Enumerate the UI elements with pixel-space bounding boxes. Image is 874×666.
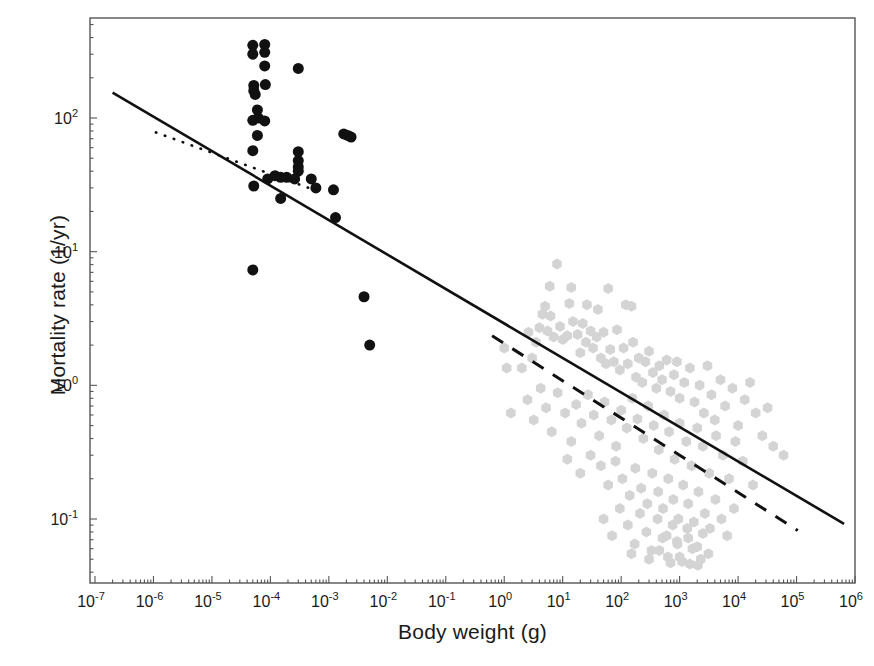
- data-point: [655, 545, 665, 556]
- data-point: [758, 430, 768, 441]
- data-point: [682, 436, 692, 447]
- data-point: [566, 282, 576, 293]
- data-point: [707, 389, 717, 400]
- data-point: [563, 454, 573, 465]
- data-point: [547, 426, 557, 437]
- y-tick-label: 10-1: [50, 508, 78, 528]
- data-point: [625, 490, 635, 501]
- data-point: [683, 498, 693, 509]
- data-point: [250, 89, 261, 100]
- data-point: [710, 415, 720, 426]
- data-point: [623, 520, 633, 531]
- x-tick-label: 10-2: [370, 590, 398, 610]
- data-point: [644, 346, 654, 357]
- data-point: [636, 483, 646, 494]
- data-point: [571, 399, 581, 410]
- data-point: [586, 450, 596, 461]
- x-tick-label: 10-3: [311, 590, 339, 610]
- data-point: [728, 383, 738, 394]
- data-point: [346, 132, 357, 143]
- data-point: [733, 420, 743, 431]
- x-tick-label: 101: [547, 590, 571, 610]
- data-point: [683, 533, 693, 544]
- data-point: [711, 494, 721, 505]
- data-point: [724, 473, 734, 484]
- series-small-organisms: [247, 39, 375, 351]
- data-point: [247, 264, 258, 275]
- data-point: [555, 321, 565, 332]
- x-tick-label: 103: [664, 590, 688, 610]
- data-point: [635, 508, 645, 519]
- data-point: [607, 530, 617, 541]
- data-point: [536, 383, 546, 394]
- data-point: [259, 115, 270, 126]
- data-point: [552, 258, 562, 269]
- data-point: [717, 514, 727, 525]
- data-point: [694, 486, 704, 497]
- data-point: [599, 514, 609, 525]
- data-points-layer: [247, 39, 788, 571]
- data-point: [672, 356, 682, 367]
- data-point: [642, 526, 652, 537]
- data-point: [247, 115, 258, 126]
- data-point: [546, 311, 556, 322]
- data-point: [582, 299, 592, 310]
- data-point: [639, 433, 649, 444]
- data-point: [703, 360, 713, 371]
- x-tick-label: 100: [488, 590, 512, 610]
- data-point: [664, 473, 674, 484]
- data-point: [745, 377, 755, 388]
- data-point: [293, 63, 304, 74]
- data-point: [560, 408, 570, 419]
- data-point: [328, 184, 339, 195]
- data-point: [633, 413, 643, 424]
- data-point: [685, 362, 695, 373]
- data-point: [499, 343, 509, 354]
- data-point: [594, 430, 604, 441]
- data-point: [649, 420, 659, 431]
- data-point: [652, 383, 662, 394]
- data-point: [643, 498, 653, 509]
- data-point: [573, 329, 583, 340]
- data-point: [699, 408, 709, 419]
- data-point: [364, 340, 375, 351]
- fit-line-overall-fit: [113, 93, 844, 524]
- data-point: [751, 408, 761, 419]
- data-point: [529, 415, 539, 426]
- data-point: [657, 374, 667, 385]
- data-point: [596, 460, 606, 471]
- series-large-organisms: [499, 258, 788, 570]
- data-point: [711, 430, 721, 441]
- x-tick-label: 10-4: [253, 590, 281, 610]
- data-point: [653, 486, 663, 497]
- data-point: [578, 318, 588, 329]
- x-tick-label: 10-5: [194, 590, 222, 610]
- x-tick-label: 104: [722, 590, 746, 610]
- plot-frame: [90, 18, 855, 583]
- data-point: [502, 362, 512, 373]
- data-point: [653, 514, 663, 525]
- data-point: [259, 60, 270, 71]
- x-tick-label: 10-1: [428, 590, 456, 610]
- data-point: [729, 503, 739, 514]
- figure: 10-710-610-510-410-310-210-1100101102103…: [0, 0, 874, 666]
- data-point: [622, 422, 632, 433]
- data-point: [700, 508, 710, 519]
- data-point: [248, 180, 259, 191]
- scatter-plot-canvas: 10-710-610-510-410-310-210-1100101102103…: [0, 0, 874, 666]
- data-point: [779, 450, 789, 461]
- data-point: [583, 389, 593, 400]
- tick-labels: 10-710-610-510-410-310-210-1100101102103…: [50, 107, 863, 610]
- data-point: [566, 436, 576, 447]
- data-point: [541, 402, 551, 413]
- data-point: [769, 441, 779, 452]
- data-point: [716, 374, 726, 385]
- data-point: [611, 441, 621, 452]
- data-point: [664, 426, 674, 437]
- data-point: [619, 343, 629, 354]
- data-point: [628, 337, 638, 348]
- data-point: [577, 418, 587, 429]
- x-tick-label: 102: [605, 590, 629, 610]
- data-point: [576, 347, 586, 358]
- data-point: [611, 456, 621, 467]
